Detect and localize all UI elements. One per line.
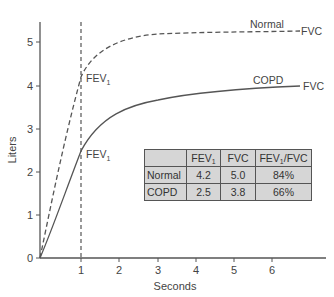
table-row-label: COPD xyxy=(145,184,187,201)
x-tick-labels: 1 2 3 4 5 6 xyxy=(78,264,275,276)
table-header-fvc: FVC xyxy=(221,150,256,167)
table-header-empty xyxy=(145,150,187,167)
y-tick-label: 5 xyxy=(27,36,33,48)
table-header-fev1: FEV1 xyxy=(187,150,221,167)
fev1-copd-annotation: FEV1 xyxy=(86,148,110,162)
normal-curve-label: Normal xyxy=(250,18,284,30)
spirometry-values-table: FEV1 FVC FEV1/FVC Normal 4.2 5.0 84% COP… xyxy=(144,149,312,201)
table-cell-ratio: 84% xyxy=(256,167,312,184)
x-tick-label: 6 xyxy=(269,264,275,276)
normal-fvc-label: FVC xyxy=(301,25,322,37)
y-tick-label: 4 xyxy=(27,80,33,92)
normal-curve xyxy=(40,31,300,258)
x-tick-label: 4 xyxy=(193,264,199,276)
table-row: COPD 2.5 3.8 66% xyxy=(145,184,312,201)
copd-fvc-label: FVC xyxy=(303,80,324,92)
y-tick-label: 3 xyxy=(27,123,33,135)
table-row: Normal 4.2 5.0 84% xyxy=(145,167,312,184)
x-tick-label: 5 xyxy=(231,264,237,276)
y-tick-label: 0 xyxy=(27,252,33,264)
y-tick-label: 1 xyxy=(27,209,33,221)
table-cell-ratio: 66% xyxy=(256,184,312,201)
x-tick-label: 1 xyxy=(78,264,84,276)
y-axis-label: Liters xyxy=(6,136,18,163)
x-axis-label: Seconds xyxy=(154,280,197,292)
copd-curve-label: COPD xyxy=(253,74,284,86)
x-tick-label: 3 xyxy=(155,264,161,276)
table-cell-fev1: 2.5 xyxy=(187,184,221,201)
fev1-normal-annotation: FEV1 xyxy=(86,72,110,86)
x-tick-label: 2 xyxy=(116,264,122,276)
y-tick-labels: 0 1 2 3 4 5 xyxy=(27,36,33,264)
table-row-label: Normal xyxy=(145,167,187,184)
y-tick-label: 2 xyxy=(27,166,33,178)
table-cell-fev1: 4.2 xyxy=(187,167,221,184)
table-cell-fvc: 5.0 xyxy=(221,167,256,184)
table-cell-fvc: 3.8 xyxy=(221,184,256,201)
table-header-row: FEV1 FVC FEV1/FVC xyxy=(145,150,312,167)
table-header-ratio: FEV1/FVC xyxy=(256,150,312,167)
